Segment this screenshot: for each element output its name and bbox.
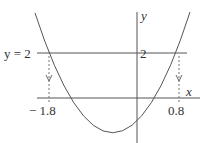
parabola-diagram: y x y = 2 2 − 1.8 0.8 <box>0 0 210 143</box>
line-label-y-equals-2: y = 2 <box>4 46 31 61</box>
x-tick-label-neg-1-8: − 1.8 <box>29 103 56 118</box>
x-tick-label-0-8: 0.8 <box>168 103 184 118</box>
parabola-curve <box>35 12 190 133</box>
y-tick-label-2: 2 <box>140 46 147 61</box>
x-axis-label: x <box>185 84 192 99</box>
y-axis-label: y <box>139 8 147 23</box>
